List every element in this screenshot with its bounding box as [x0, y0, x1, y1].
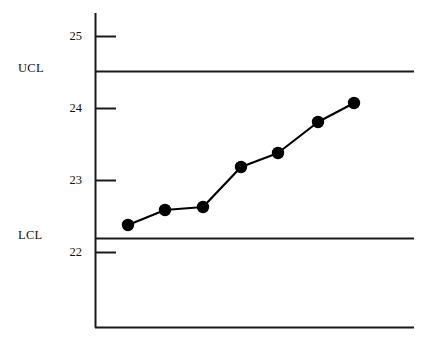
y-axis-ticks: [96, 37, 116, 253]
y-tick-label-25: 25: [46, 30, 82, 43]
chart-axes: [95, 13, 414, 328]
data-point: [312, 116, 324, 128]
lcl-label: LCL: [18, 229, 43, 242]
data-point: [159, 204, 171, 216]
data-point: [122, 219, 134, 231]
data-point: [235, 161, 247, 173]
data-point-markers: [122, 97, 360, 231]
y-tick-label-22: 22: [46, 246, 82, 259]
data-point: [348, 97, 360, 109]
ucl-label: UCL: [18, 62, 44, 75]
control-chart: 25 24 23 22 UCL LCL: [0, 0, 429, 341]
y-tick-label-23: 23: [46, 174, 82, 187]
control-limit-lines: [96, 72, 414, 239]
chart-canvas: [0, 0, 429, 341]
data-point: [272, 147, 284, 159]
y-tick-label-24: 24: [46, 102, 82, 115]
data-point: [197, 201, 209, 213]
